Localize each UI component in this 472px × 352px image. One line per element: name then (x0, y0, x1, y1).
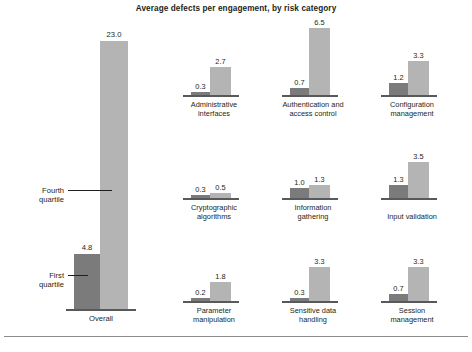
panel-fourth-quartile-value: 3.3 (303, 257, 336, 266)
panel-first-quartile-bar (389, 185, 408, 198)
panel-category-line1: Sensitive data (290, 306, 336, 315)
panel-category-line1: Configuration (390, 100, 434, 109)
small-multiples-grid: 0.32.7Administrativeinterfaces0.76.5Auth… (170, 18, 468, 328)
panel-axis-line (183, 301, 239, 303)
panel-6: 1.33.5Input validation (368, 121, 467, 224)
panel-first-quartile-bar (290, 88, 309, 95)
callout-first-line1: First (49, 271, 64, 280)
panel-category-line1: Session (399, 306, 425, 315)
bottom-rule (4, 336, 468, 337)
panel-1: 0.32.7Administrativeinterfaces (170, 18, 269, 121)
panel-category-line2: interfaces (198, 109, 230, 118)
panel-3: 1.23.3Configurationmanagement (368, 18, 467, 121)
panel-category-label: Authentication andaccess control (269, 100, 357, 119)
first-quartile-leader-line (68, 275, 88, 276)
chart-figure: Average defects per engagement, by risk … (0, 0, 472, 352)
panel-plot-area: 1.23.3 (368, 21, 467, 95)
panel-plot-area: 0.76.5 (269, 21, 368, 95)
panel-category-line1: Administrative (191, 100, 237, 109)
panel-axis-line (282, 198, 338, 200)
panel-axis-line (381, 198, 437, 200)
chart-title: Average defects per engagement, by risk … (0, 4, 472, 13)
panel-2: 0.76.5Authentication andaccess control (269, 18, 368, 121)
panel-category-line1: Information (295, 203, 332, 212)
panel-category-line2: management (390, 109, 433, 118)
panel-first-quartile-bar (389, 83, 408, 95)
panel-fourth-quartile-value: 6.5 (303, 18, 336, 27)
panel-category-label: Sensitive datahandling (269, 306, 357, 325)
panel-plot-area: 0.21.8 (170, 227, 269, 301)
panel-fourth-quartile-value: 3.3 (402, 257, 435, 266)
overall-fourth-quartile-bar (100, 41, 128, 310)
callout-fourth-line1: Fourth (42, 186, 64, 195)
panel-fourth-quartile-value: 1.8 (204, 272, 237, 281)
panel-plot-area: 1.01.3 (269, 124, 368, 198)
panel-axis-line (183, 198, 239, 200)
overall-category-label: Overall (56, 314, 146, 323)
panel-axis-line (183, 95, 239, 97)
panel-category-line2: access control (289, 109, 336, 118)
panel-fourth-quartile-value: 3.3 (402, 51, 435, 60)
panel-7: 0.21.8Parametermanipulation (170, 224, 269, 327)
panel-category-label: Administrativeinterfaces (170, 100, 258, 119)
panel-fourth-quartile-value: 3.5 (402, 152, 435, 161)
panel-axis-line (381, 301, 437, 303)
panel-category-line2: management (390, 315, 433, 324)
panel-axis-line (282, 301, 338, 303)
panel-axis-line (282, 95, 338, 97)
panel-9: 0.73.3Sessionmanagement (368, 224, 467, 327)
panel-category-line2: handling (299, 315, 327, 324)
panel-category-label: Informationgathering (269, 203, 357, 222)
fourth-quartile-callout-label: Fourth quartile (12, 186, 64, 205)
overall-first-quartile-bar (74, 254, 100, 310)
panel-fourth-quartile-bar (309, 185, 330, 198)
panel-category-label: Cryptographicalgorithms (170, 203, 258, 222)
panel-plot-area: 0.33.3 (269, 227, 368, 301)
callout-fourth-line2: quartile (39, 195, 64, 204)
panel-category-label: Sessionmanagement (368, 306, 456, 325)
panel-fourth-quartile-bar (210, 67, 231, 95)
panel-fourth-quartile-bar (309, 267, 330, 301)
panel-category-line2: algorithms (197, 212, 231, 221)
panel-first-quartile-bar (290, 188, 309, 198)
panel-plot-area: 0.32.7 (170, 21, 269, 95)
panel-fourth-quartile-bar (210, 282, 231, 301)
panel-category-label: Input validation (368, 212, 456, 222)
overall-fourth-quartile-value: 23.0 (94, 30, 134, 39)
panel-category-line1: Cryptographic (191, 203, 237, 212)
panel-fourth-quartile-bar (408, 162, 429, 198)
panel-category-line1: Authentication and (282, 100, 343, 109)
first-quartile-callout-label: First quartile (12, 271, 64, 290)
panel-fourth-quartile-bar (408, 267, 429, 301)
panel-category-label: Parametermanipulation (170, 306, 258, 325)
panel-fourth-quartile-value: 1.3 (303, 175, 336, 184)
panel-fourth-quartile-value: 0.5 (204, 183, 237, 192)
overall-plot-area: 4.8 23.0 Fourth quartile First quartile (8, 18, 166, 310)
fourth-quartile-leader-line (68, 190, 112, 191)
overall-axis-line (66, 309, 136, 311)
panel-plot-area: 0.30.5 (170, 124, 269, 198)
panel-plot-area: 0.73.3 (368, 227, 467, 301)
panel-5: 1.01.3Informationgathering (269, 121, 368, 224)
panel-fourth-quartile-bar (309, 28, 330, 95)
panel-fourth-quartile-bar (408, 61, 429, 95)
panel-category-line1: Parameter (197, 306, 232, 315)
panel-plot-area: 1.33.5 (368, 124, 467, 198)
panel-axis-line (381, 95, 437, 97)
panel-category-label: Configurationmanagement (368, 100, 456, 119)
panel-category-line2: manipulation (193, 315, 235, 324)
panel-category-line1: Input validation (387, 212, 437, 221)
callout-first-line2: quartile (39, 280, 64, 289)
panel-4: 0.30.5Cryptographicalgorithms (170, 121, 269, 224)
panel-first-quartile-bar (389, 294, 408, 301)
overall-panel: 4.8 23.0 Fourth quartile First quartile … (8, 18, 166, 328)
panel-fourth-quartile-value: 2.7 (204, 57, 237, 66)
panel-category-line2: gathering (298, 212, 329, 221)
panel-8: 0.33.3Sensitive datahandling (269, 224, 368, 327)
